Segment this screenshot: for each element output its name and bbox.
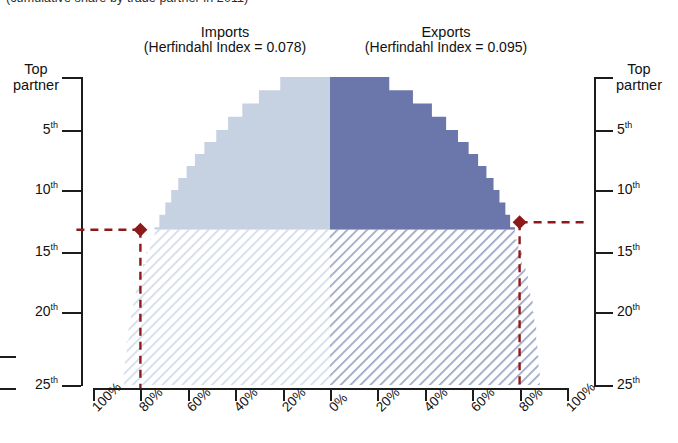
left-axis-title-line2: partner bbox=[13, 77, 59, 93]
exports-title: Exports bbox=[326, 24, 566, 40]
imports-panel-heading: Imports (Herfindahl Index = 0.078) bbox=[110, 24, 340, 56]
right-axis-spine bbox=[594, 77, 596, 386]
right-axis-title-line2: partner bbox=[616, 77, 662, 93]
y-tick-left-2 bbox=[62, 190, 81, 192]
right-axis-title: Top partner bbox=[608, 62, 670, 94]
exports-herfindahl-label: (Herfindahl Index = 0.095) bbox=[326, 40, 566, 56]
right-axis-title-line1: Top bbox=[627, 61, 650, 77]
imports-threshold-marker bbox=[133, 223, 147, 237]
y-tick-right-1 bbox=[594, 130, 613, 132]
exports-panel-heading: Exports (Herfindahl Index = 0.095) bbox=[326, 24, 566, 56]
y-tick-right-5 bbox=[594, 385, 613, 387]
y-tick-label-left-5: 5th bbox=[2, 120, 58, 137]
left-axis-spine bbox=[81, 77, 83, 386]
y-tick-label-right-10: 10th bbox=[617, 180, 640, 197]
y-tick-right-0 bbox=[594, 77, 613, 79]
chart-canvas: (cumulative share by trade partner in 20… bbox=[0, 0, 678, 443]
y-tick-left-3 bbox=[62, 252, 81, 254]
y-tick-right-3 bbox=[594, 252, 613, 254]
imports-herfindahl-label: (Herfindahl Index = 0.078) bbox=[110, 40, 340, 56]
cumulative-share-plot bbox=[93, 77, 567, 386]
y-tick-left-0 bbox=[62, 77, 81, 79]
y-tick-label-right-5: 5th bbox=[617, 120, 632, 137]
y-tick-label-left-20: 20th bbox=[2, 302, 58, 319]
y-tick-left-4 bbox=[62, 312, 81, 314]
y-tick-label-right-20: 20th bbox=[617, 302, 640, 319]
y-tick-label-left-10: 10th bbox=[2, 180, 58, 197]
left-axis-title-line1: Top bbox=[24, 61, 47, 77]
imports-title: Imports bbox=[110, 24, 340, 40]
chart-caption: (cumulative share by trade partner in 20… bbox=[6, 0, 248, 5]
y-tick-right-2 bbox=[594, 190, 613, 192]
x-tick-label-10: 100% bbox=[563, 380, 598, 415]
y-tick-label-left-25: 25th bbox=[2, 375, 58, 392]
y-tick-label-right-25: 25th bbox=[617, 375, 640, 392]
left-axis-title: Top partner bbox=[5, 62, 67, 94]
plot-area bbox=[93, 77, 567, 386]
y-tick-label-left-15: 15th bbox=[2, 242, 58, 259]
y-tick-left-5 bbox=[62, 385, 81, 387]
y-tick-label-right-15: 15th bbox=[617, 242, 640, 259]
y-tick-right-4 bbox=[594, 312, 613, 314]
exports-threshold-marker bbox=[513, 215, 527, 229]
y-tick-left-1 bbox=[62, 130, 81, 132]
